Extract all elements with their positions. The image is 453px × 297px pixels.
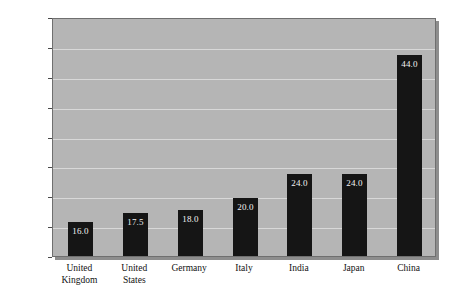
bar[interactable]: 18.0: [178, 210, 203, 257]
x-axis-label-line: States: [107, 275, 162, 287]
x-axis-label-line: Kingdom: [52, 275, 107, 287]
bar-value-label: 44.0: [397, 60, 422, 69]
x-axis-label: Germany: [162, 263, 217, 275]
bar-value-label: 24.0: [342, 179, 367, 188]
x-axis-label: Italy: [217, 263, 272, 275]
x-axis-label-line: India: [271, 263, 326, 275]
gridline: [53, 49, 435, 50]
gridline: [53, 109, 435, 110]
bar[interactable]: 20.0: [233, 198, 258, 257]
plot-area: 16.017.518.020.024.024.044.0: [52, 18, 436, 257]
x-axis-label: UnitedStates: [107, 263, 162, 286]
x-axis-label: India: [271, 263, 326, 275]
bar[interactable]: 24.0: [342, 174, 367, 257]
x-axis-label-line: United: [107, 263, 162, 275]
bar[interactable]: 16.0: [68, 222, 93, 257]
bar-value-label: 24.0: [287, 179, 312, 188]
bar-value-label: 18.0: [178, 215, 203, 224]
bar-chart: Percent of GDP 101520253035404550 16.017…: [0, 0, 453, 297]
x-axis-label: Japan: [326, 263, 381, 275]
x-axis-label-line: China: [381, 263, 436, 275]
x-axis-label: UnitedKingdom: [52, 263, 107, 286]
y-axis-tick-mark: [48, 257, 52, 258]
bar-value-label: 17.5: [123, 218, 148, 227]
bar[interactable]: 17.5: [123, 213, 148, 257]
x-axis-label-line: United: [52, 263, 107, 275]
gridline: [53, 139, 435, 140]
x-axis-label-line: Japan: [326, 263, 381, 275]
x-axis-label-line: Germany: [162, 263, 217, 275]
x-axis-label: China: [381, 263, 436, 275]
gridline: [53, 79, 435, 80]
bar-value-label: 20.0: [233, 203, 258, 212]
bar[interactable]: 44.0: [397, 55, 422, 257]
y-axis-ticks: 101520253035404550: [0, 0, 52, 297]
x-axis-label-line: Italy: [217, 263, 272, 275]
bar[interactable]: 24.0: [287, 174, 312, 257]
gridline: [53, 168, 435, 169]
bar-value-label: 16.0: [68, 227, 93, 236]
